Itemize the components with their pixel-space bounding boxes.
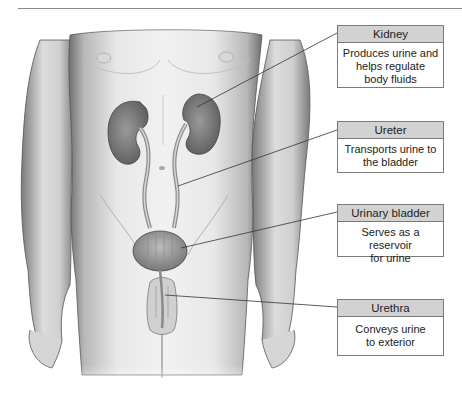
urinary-bladder: [133, 231, 187, 271]
callout-description: Transports urine to the bladder: [338, 139, 443, 174]
left-arm: [21, 40, 75, 348]
callout-description: Produces urine and helps regulate body f…: [338, 43, 443, 91]
callout-urinary-bladder: Urinary bladder Serves as a reservoir fo…: [337, 204, 444, 257]
callout-title: Kidney: [338, 26, 443, 43]
callout-urethra: Urethra Conveys urine to exterior: [337, 299, 444, 356]
callout-title: Urethra: [338, 300, 443, 317]
callout-description: Conveys urine to exterior: [338, 317, 443, 354]
navel: [159, 166, 165, 170]
callout-title: Ureter: [338, 122, 443, 139]
callout-ureter: Ureter Transports urine to the bladder: [337, 121, 444, 173]
nipple-right: [219, 52, 233, 62]
nipple-left: [97, 53, 111, 63]
callout-kidney: Kidney Produces urine and helps regulate…: [337, 25, 444, 88]
callout-description: Serves as a reservoir for urine: [338, 222, 443, 270]
callout-title: Urinary bladder: [338, 205, 443, 222]
